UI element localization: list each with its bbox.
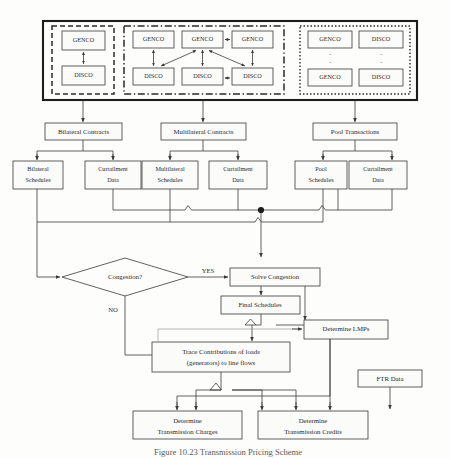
label-credits-2: Transmission Credits [284,428,342,435]
box-determine-transmission-credits [258,411,368,439]
label-final-schedules: Final Schedules [238,301,282,308]
label-ml-disco-1: DISCO [144,72,163,79]
fork-bilateral [37,140,113,159]
label-no: NO [108,306,118,313]
label-bilateral-schedules-2: Schedules [25,176,51,183]
label-solve-congestion: Solve Congestion [251,273,300,280]
label-trace-contributions-2: (generators) to line flows [187,359,256,367]
label-credits-1: Determine [299,417,328,424]
rail-feedback-left [158,329,299,341]
label-ml-disco-3: DISCO [243,72,262,79]
label-pl-genco-2: GENCO [319,73,341,80]
transmission-pricing-figure: GENCO DISCO GENCO GENCO GENCO DISCO DISC… [0,0,451,458]
box-trace-contributions [152,342,290,372]
pool-ellipsis-genco-b: . [329,57,331,65]
rail-schedules [37,189,323,222]
label-trace-contributions-1: Trace Contributions of loads [182,348,260,355]
rail-trace-out [196,372,262,409]
label-bilateral-curtailment-2: Data [107,176,119,183]
label-bilateral-schedules-1: Bilateral [27,165,49,172]
label-multilateral-curtailment-2: Data [232,176,244,183]
label-multilateral-schedules-1: Multilateral [155,165,184,172]
junction-dot [258,207,264,213]
label-pool-curtailment-1: Curtailment [363,165,393,172]
box-determine-transmission-charges [133,411,242,439]
rail-curtailment [113,189,392,210]
label-pool-schedules-1: Pool [315,165,327,172]
label-ftr-data: FTR Data [377,375,404,382]
edge-rail-decision [37,222,60,277]
label-pl-disco-2: DISCO [372,73,391,80]
figure-caption: Figure 10.23 Transmission Pricing Scheme [154,447,302,457]
pool-ellipsis-disco-b: . [380,57,382,65]
label-ml-genco-2: GENCO [192,35,214,42]
label-charges-2: Transmission Charges [157,428,218,435]
pool-ellipsis-disco-a: . [380,49,382,57]
label-multilateral-contracts: Multilateral Contracts [174,128,234,135]
label-ml-genco-3: GENCO [242,35,264,42]
label-determine-lmps: Determine LMPs [322,325,369,332]
fork-pool [323,140,392,159]
fork-multilateral [170,140,238,159]
label-pool-transactions: Pool Transactions [331,128,380,135]
label-charges-1: Determine [173,417,202,424]
label-congestion-decision: Congestion? [108,273,142,280]
label-ml-disco-2: DISCO [193,72,212,79]
pool-ellipsis-genco-a: . [329,49,331,57]
flowchart-canvas: GENCO DISCO GENCO GENCO GENCO DISCO DISC… [0,0,451,458]
label-multilateral-schedules-2: Schedules [157,176,183,183]
label-bi-disco: DISCO [74,71,93,78]
rail-trace-credits2 [232,390,296,409]
hop-trace-rail [210,383,222,390]
label-bilateral-curtailment-1: Curtailment [98,165,128,172]
label-ml-genco-1: GENCO [143,35,165,42]
label-bi-genco: GENCO [73,36,95,43]
label-pl-genco-1: GENCO [319,35,341,42]
label-yes: YES [202,267,215,274]
label-pool-schedules-2: Schedules [308,176,334,183]
label-bilateral-contracts: Bilateral Contracts [58,128,110,135]
label-pool-curtailment-2: Data [372,176,384,183]
label-multilateral-curtailment-1: Curtailment [223,165,253,172]
label-pl-disco-1: DISCO [372,35,391,42]
hop-final-rail [245,319,256,325]
